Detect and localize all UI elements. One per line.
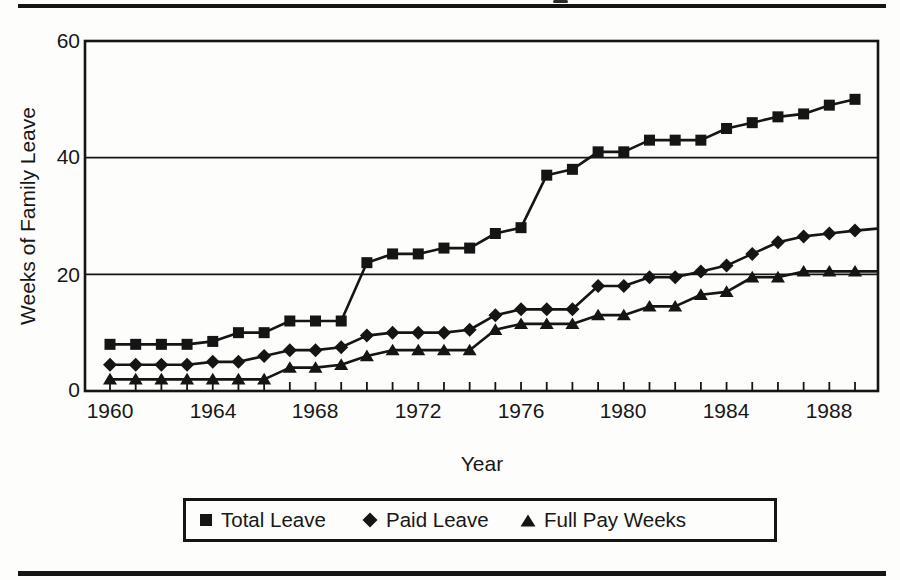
x-axis-title: Year xyxy=(461,452,503,476)
y-tick-label-20: 20 xyxy=(36,263,80,287)
legend-label-total-leave: Total Leave xyxy=(221,508,326,532)
y-tick-label-0: 0 xyxy=(36,378,80,402)
legend-item-full-pay-weeks: Full Pay Weeks xyxy=(520,501,686,539)
x-tick-label-1960: 1960 xyxy=(87,399,134,423)
legend-item-total-leave: Total Leave xyxy=(199,501,326,539)
y-axis-title: Weeks of Family Leave xyxy=(16,106,42,326)
square-marker-icon xyxy=(199,513,213,527)
x-tick-label-1988: 1988 xyxy=(806,399,853,423)
legend-label-paid-leave: Paid Leave xyxy=(386,508,489,532)
triangle-marker-icon xyxy=(520,514,536,527)
diamond-marker-icon xyxy=(362,512,378,528)
legend-label-full-pay-weeks: Full Pay Weeks xyxy=(544,508,686,532)
bottom-horizontal-rule xyxy=(18,571,886,576)
x-tick-label-1980: 1980 xyxy=(600,399,647,423)
y-tick-label-40: 40 xyxy=(36,145,80,169)
y-tick-label-60: 60 xyxy=(36,29,80,53)
x-tick-label-1968: 1968 xyxy=(292,399,339,423)
figure: 60 40 20 0 1960 1964 1968 1972 1976 1980… xyxy=(0,0,900,580)
chart-canvas xyxy=(0,0,900,580)
legend-item-paid-leave: Paid Leave xyxy=(362,501,489,539)
legend: Total Leave Paid Leave Full Pay Weeks xyxy=(183,498,777,542)
x-tick-label-1976: 1976 xyxy=(498,399,545,423)
x-tick-label-1972: 1972 xyxy=(395,399,442,423)
x-tick-label-1984: 1984 xyxy=(703,399,750,423)
x-tick-label-1964: 1964 xyxy=(190,399,237,423)
